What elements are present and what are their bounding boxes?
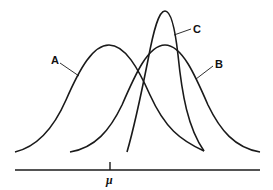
leader-b — [196, 66, 213, 79]
label-b: B — [215, 58, 223, 70]
curve-b — [70, 45, 260, 152]
label-c: C — [193, 23, 201, 35]
label-a: A — [51, 54, 59, 66]
curve-a — [15, 45, 204, 152]
mu-label: μ — [105, 173, 113, 187]
distribution-diagram: A B C μ — [0, 0, 273, 190]
leader-a — [60, 63, 79, 76]
leader-c — [174, 29, 191, 35]
